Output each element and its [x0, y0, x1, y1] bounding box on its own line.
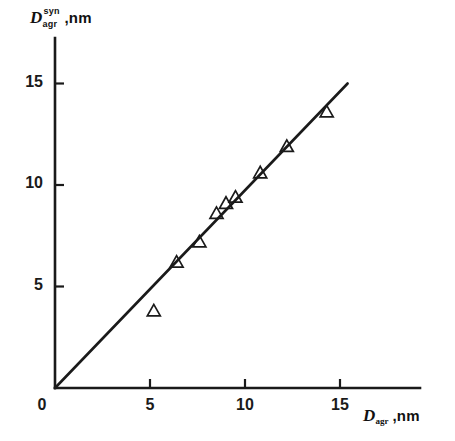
scatter-plot-figure: Dsynagr,nm Dagr,nm 05101551015 [0, 0, 455, 441]
x-tick-label-5: 5 [130, 396, 170, 414]
x-axis-units: ,nm [392, 407, 419, 424]
y-axis-superscript: syn [43, 6, 59, 16]
x-axis-title: Dagr,nm [363, 406, 420, 426]
y-axis-subscript: agr [42, 19, 57, 29]
x-axis-subscript: agr [375, 416, 388, 426]
plot-canvas [0, 0, 455, 441]
y-axis-units: ,nm [64, 9, 91, 26]
y-tick-label-5: 5 [5, 276, 43, 294]
x-tick-label-10: 10 [225, 396, 265, 414]
y-tick-label-15: 15 [5, 73, 43, 91]
x-tick-label-15: 15 [320, 396, 360, 414]
x-axis-variable: D [363, 406, 375, 425]
y-tick-label-10: 10 [5, 174, 43, 192]
identity-reference-line [55, 84, 348, 389]
y-axis-title: Dsynagr,nm [30, 8, 92, 28]
data-point-marker [147, 304, 160, 316]
axes-group [55, 38, 420, 388]
origin-tick-label: 0 [22, 396, 62, 414]
y-axis-variable: D [30, 8, 42, 27]
data-markers [147, 105, 333, 315]
reference-line [55, 84, 348, 389]
